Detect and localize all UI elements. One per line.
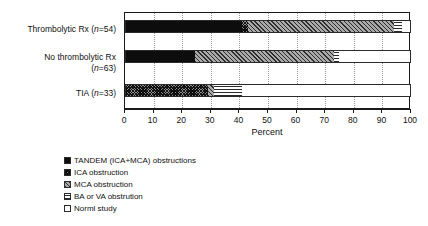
x-tick-label-80: 80 <box>338 115 368 125</box>
swatch-mca <box>64 181 71 188</box>
swatch-normal <box>64 205 71 212</box>
x-tick-90 <box>381 109 382 113</box>
chart-figure: Thrombolytic Rx (n=54) No thrombolytic R… <box>0 0 428 226</box>
y-axis-category-labels: Thrombolytic Rx (n=54) No thrombolytic R… <box>0 12 120 109</box>
x-tick-label-60: 60 <box>281 115 311 125</box>
x-tick-label-90: 90 <box>366 115 396 125</box>
legend-label-bava: BA or VA obstrution <box>74 192 143 201</box>
x-tick-label-30: 30 <box>195 115 225 125</box>
x-tick-50 <box>267 109 268 113</box>
legend-item-bava: BA or VA obstrution <box>64 191 196 202</box>
bar-segment-normal <box>339 50 411 63</box>
bar-segment-ica <box>125 84 208 97</box>
x-tick-label-10: 10 <box>138 115 168 125</box>
swatch-tandem <box>64 157 71 164</box>
x-tick-label-0: 0 <box>109 115 139 125</box>
x-tick-label-50: 50 <box>252 115 282 125</box>
x-axis-title: Percent <box>124 127 410 137</box>
x-tick-label-70: 70 <box>309 115 339 125</box>
legend-item-tandem: TANDEM (ICA+MCA) obstructions <box>64 155 196 166</box>
x-tick-10 <box>153 109 154 113</box>
x-tick-40 <box>238 109 239 113</box>
x-tick-60 <box>296 109 297 113</box>
swatch-bava <box>64 193 71 200</box>
plot-area <box>124 12 410 109</box>
x-tick-label-100: 100 <box>395 115 425 125</box>
bar-segment-mca <box>248 20 394 33</box>
legend-label-normal: Norml study <box>74 204 117 213</box>
bar-segment-bava <box>214 84 243 97</box>
bar-segment-normal <box>242 84 411 97</box>
bar-segment-normal <box>402 20 411 33</box>
y-label-no-thrombolytic-rx: No thrombolytic Rx(n=63) <box>0 52 116 73</box>
chart-legend: TANDEM (ICA+MCA) obstructionsICA obstruc… <box>64 155 196 215</box>
legend-label-tandem: TANDEM (ICA+MCA) obstructions <box>74 156 196 165</box>
bar-row-thrombolytic-rx <box>125 20 411 33</box>
bar-segment-bava <box>394 20 403 33</box>
bar-segment-tandem <box>125 50 195 63</box>
x-tick-30 <box>210 109 211 113</box>
x-tick-label-20: 20 <box>166 115 196 125</box>
x-tick-label-40: 40 <box>223 115 253 125</box>
y-label-tia: TIA (n=33) <box>0 88 116 99</box>
legend-item-ica: ICA obstruction <box>64 167 196 178</box>
bar-segment-tandem <box>125 20 242 33</box>
y-label-thrombolytic-rx: Thrombolytic Rx (n=54) <box>0 24 116 35</box>
legend-label-ica: ICA obstruction <box>74 168 128 177</box>
swatch-ica <box>64 169 71 176</box>
x-tick-100 <box>410 109 411 113</box>
x-tick-20 <box>181 109 182 113</box>
bar-row-tia <box>125 84 411 97</box>
legend-item-mca: MCA obstruction <box>64 179 196 190</box>
x-tick-0 <box>124 109 125 113</box>
x-tick-70 <box>324 109 325 113</box>
legend-item-normal: Norml study <box>64 203 196 214</box>
bar-row-no-thrombolytic-rx <box>125 50 411 63</box>
x-tick-80 <box>353 109 354 113</box>
legend-label-mca: MCA obstruction <box>74 180 133 189</box>
bar-segment-mca <box>195 50 334 63</box>
